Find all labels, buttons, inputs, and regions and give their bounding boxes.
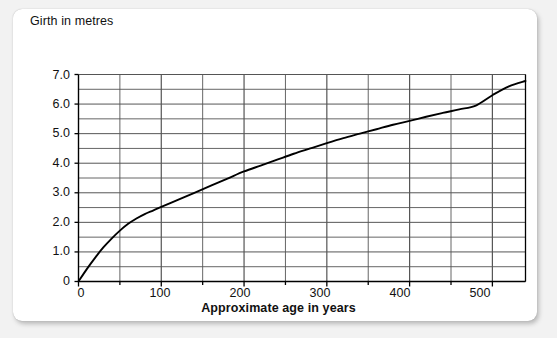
data-series-line	[79, 81, 526, 281]
axis-ticks	[75, 75, 493, 287]
horizontal-minor-gridlines	[79, 89, 526, 266]
chart-figure: Girth in metres 7.0 6.0 5.0 4.0 3.0 2.0 …	[0, 0, 557, 338]
plot-area	[0, 0, 557, 338]
page-background: Girth in metres 7.0 6.0 5.0 4.0 3.0 2.0 …	[0, 0, 557, 338]
